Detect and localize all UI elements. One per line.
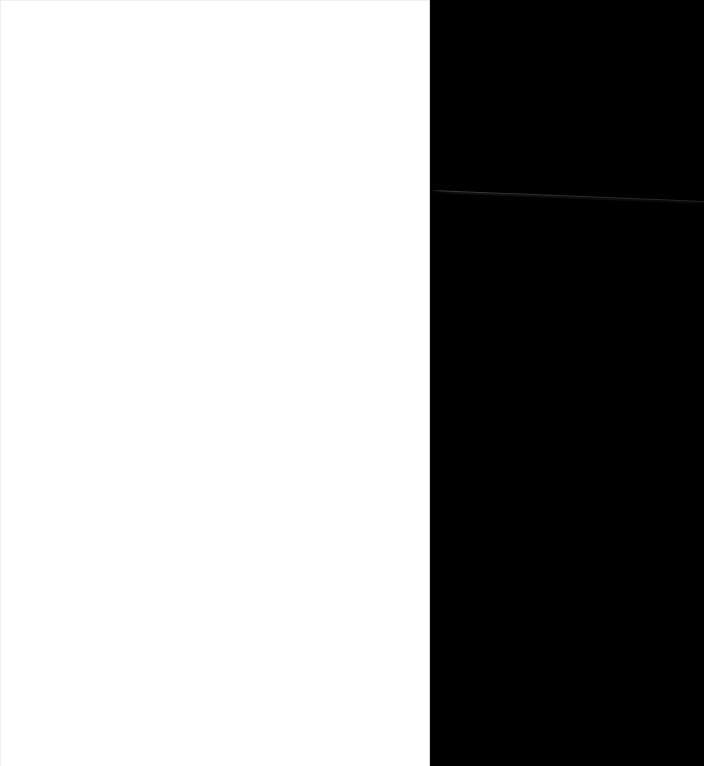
content-panel-canvas[interactable]	[1, 1, 430, 766]
screenshot-root	[0, 0, 704, 766]
dark-panel[interactable]	[430, 0, 704, 766]
content-panel[interactable]	[0, 0, 430, 766]
diagonal-hairline-shadow	[432, 191, 704, 204]
diagonal-hairline	[432, 190, 704, 202]
